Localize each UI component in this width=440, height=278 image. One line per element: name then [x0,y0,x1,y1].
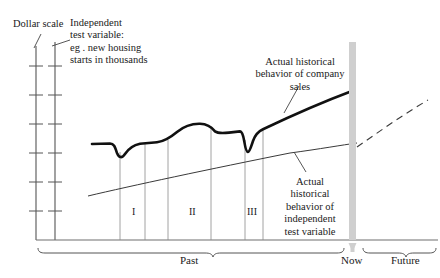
period-marker-1: I [132,206,135,217]
forecasting-diagram: I II III [0,0,440,278]
period-marker-2: II [189,206,196,217]
future-label: Future [391,254,420,267]
company-sales-curve [92,91,352,157]
past-label: Past [180,254,198,267]
independent-variable-label: Independent test variable: eg . new hous… [70,17,148,67]
test-variable-curve-label: Actual historical behavior of independen… [258,176,362,238]
now-label: Now [341,254,362,267]
sales-curve-label: Actual historical behavior of company sa… [241,56,359,93]
period-marker-3: III [247,206,257,217]
now-arrow-stem [351,243,355,252]
test-variable-label-leader [294,152,306,172]
dollar-scale-axis [29,46,43,240]
dollar-scale-label: Dollar scale [13,18,63,30]
independent-variable-scale-axis [48,42,62,240]
future-projection-line [357,100,428,147]
dollar-scale-leader [34,34,41,48]
